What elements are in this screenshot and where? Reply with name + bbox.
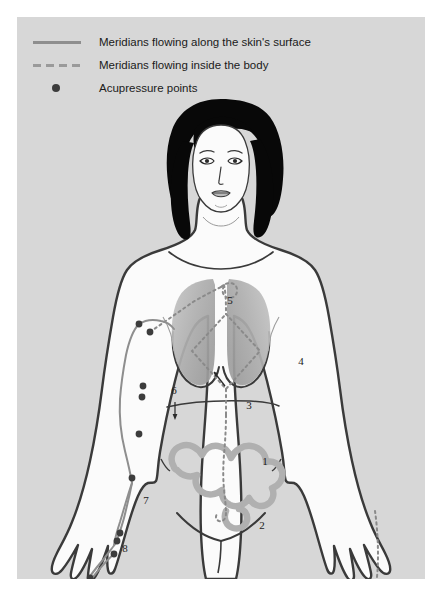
- point-upperarm-1: [140, 383, 147, 390]
- point-shoulder-2: [147, 329, 154, 336]
- label-4: 4: [298, 355, 304, 367]
- figure-panel: Meridians flowing along the skin's surfa…: [17, 17, 425, 579]
- legend-label-dashed-line: Meridians flowing inside the body: [99, 55, 268, 75]
- point-wrist-1: [114, 538, 121, 545]
- label-8: 8: [122, 542, 128, 554]
- label-5: 5: [227, 294, 233, 306]
- point-shoulder-1: [136, 321, 143, 328]
- label-7: 7: [143, 494, 149, 506]
- legend-label-solid-line: Meridians flowing along the skin's surfa…: [99, 32, 311, 52]
- legend: Meridians flowing along the skin's surfa…: [17, 17, 425, 97]
- label-3: 3: [246, 399, 252, 411]
- point-upperarm-3: [136, 431, 143, 438]
- point-upperarm-2: [139, 394, 146, 401]
- solid-line-sample-icon: [31, 32, 83, 52]
- point-wrist-2: [111, 551, 118, 558]
- point-elbow: [129, 475, 136, 482]
- dashed-line-sample-icon: [31, 55, 83, 75]
- label-6: 6: [171, 384, 177, 396]
- label-2: 2: [259, 519, 265, 531]
- label-1: 1: [262, 455, 268, 467]
- body-silhouette: [52, 185, 391, 579]
- point-forearm: [117, 530, 124, 537]
- anatomical-figure: 123456789: [17, 89, 425, 579]
